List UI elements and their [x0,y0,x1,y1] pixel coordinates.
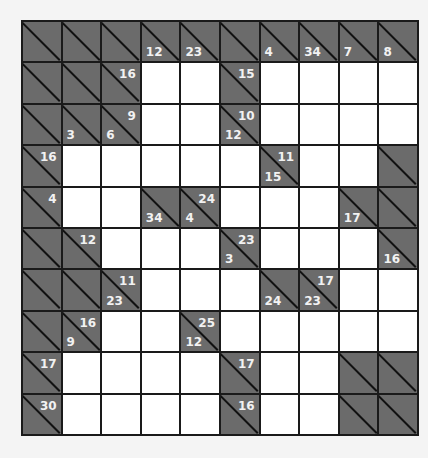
across-clue: 4 [48,193,56,205]
clue-block [63,270,101,309]
entry-cell[interactable] [221,188,259,227]
entry-cell[interactable] [340,229,378,268]
entry-cell[interactable] [340,105,378,144]
across-clue: 10 [238,110,255,122]
entry-cell[interactable] [102,146,140,185]
entry-cell[interactable] [261,312,299,351]
entry-cell[interactable] [181,146,219,185]
clue-block: 34 [300,22,338,61]
clue-block: 1723 [300,270,338,309]
clue-block [340,395,378,434]
clue-block: 2512 [181,312,219,351]
clue-block [102,22,140,61]
clue-block: 7 [340,22,378,61]
down-clue: 12 [225,129,242,141]
clue-block: 3 [63,105,101,144]
entry-cell[interactable] [300,146,338,185]
entry-cell[interactable] [102,353,140,392]
clue-block [23,229,61,268]
entry-cell[interactable] [181,353,219,392]
across-clue: 17 [317,275,334,287]
entry-cell[interactable] [181,270,219,309]
entry-cell[interactable] [261,229,299,268]
entry-cell[interactable] [340,270,378,309]
down-clue: 8 [383,46,391,58]
clue-block [379,353,417,392]
clue-block [379,395,417,434]
entry-cell[interactable] [221,312,259,351]
entry-cell[interactable] [142,63,180,102]
entry-cell[interactable] [221,270,259,309]
entry-cell[interactable] [142,353,180,392]
across-clue: 16 [40,151,57,163]
entry-cell[interactable] [300,312,338,351]
down-clue: 15 [265,171,282,183]
entry-cell[interactable] [102,395,140,434]
entry-cell[interactable] [300,229,338,268]
entry-cell[interactable] [142,229,180,268]
clue-block: 244 [181,188,219,227]
clue-block: 17 [23,353,61,392]
entry-cell[interactable] [340,63,378,102]
down-clue: 24 [265,295,282,307]
down-clue: 6 [106,129,114,141]
clue-block: 12 [63,229,101,268]
across-clue: 12 [79,234,96,246]
entry-cell[interactable] [63,353,101,392]
clue-block: 17 [221,353,259,392]
entry-cell[interactable] [221,146,259,185]
clue-block: 1115 [261,146,299,185]
entry-cell[interactable] [102,312,140,351]
entry-cell[interactable] [300,105,338,144]
entry-cell[interactable] [300,395,338,434]
entry-cell[interactable] [261,63,299,102]
down-clue: 7 [344,46,352,58]
across-clue: 30 [40,400,57,412]
clue-block: 15 [221,63,259,102]
across-clue: 11 [119,275,136,287]
entry-cell[interactable] [142,312,180,351]
entry-cell[interactable] [340,146,378,185]
entry-cell[interactable] [340,312,378,351]
clue-block [23,312,61,351]
entry-cell[interactable] [261,188,299,227]
clue-block [23,105,61,144]
clue-block [23,63,61,102]
entry-cell[interactable] [300,353,338,392]
entry-cell[interactable] [261,105,299,144]
entry-cell[interactable] [142,146,180,185]
down-clue: 3 [225,253,233,265]
entry-cell[interactable] [261,395,299,434]
entry-cell[interactable] [63,188,101,227]
entry-cell[interactable] [63,146,101,185]
down-clue: 9 [67,336,75,348]
across-clue: 9 [127,110,135,122]
down-clue: 34 [304,46,321,58]
down-clue: 34 [146,212,163,224]
clue-block [379,188,417,227]
clue-block: 16 [221,395,259,434]
entry-cell[interactable] [142,395,180,434]
entry-cell[interactable] [181,105,219,144]
entry-cell[interactable] [379,270,417,309]
across-clue: 16 [238,400,255,412]
entry-cell[interactable] [181,63,219,102]
clue-block: 24 [261,270,299,309]
entry-cell[interactable] [261,353,299,392]
entry-cell[interactable] [379,312,417,351]
entry-cell[interactable] [379,105,417,144]
entry-cell[interactable] [102,188,140,227]
entry-cell[interactable] [181,395,219,434]
entry-cell[interactable] [102,229,140,268]
entry-cell[interactable] [142,270,180,309]
entry-cell[interactable] [181,229,219,268]
across-clue: 17 [238,358,255,370]
entry-cell[interactable] [142,105,180,144]
down-clue: 16 [383,253,400,265]
entry-cell[interactable] [300,188,338,227]
clue-block: 1123 [102,270,140,309]
clue-block: 23 [181,22,219,61]
entry-cell[interactable] [63,395,101,434]
entry-cell[interactable] [379,63,417,102]
entry-cell[interactable] [300,63,338,102]
